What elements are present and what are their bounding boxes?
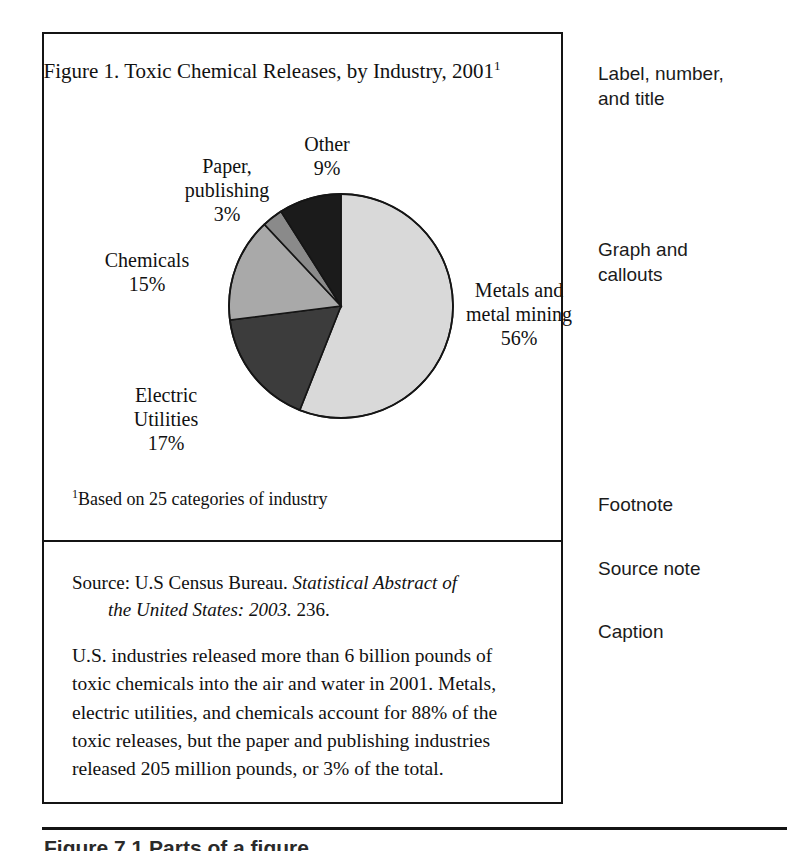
figure-lower-panel: Source: U.S Census Bureau. Statistical A…	[44, 542, 561, 802]
annotation-footnote: Footnote	[598, 493, 803, 518]
pie-callout-other: Other 9%	[272, 132, 382, 180]
annotation-source-note: Source note	[598, 557, 803, 582]
pie-chart: Metals and metal mining 56%Electric Util…	[44, 138, 561, 478]
page-bottom-caption: Figure 7.1 Parts of a figure	[44, 836, 744, 851]
source-note-page: 236.	[292, 599, 330, 620]
pie-callout-electric-utilities: Electric Utilities 17%	[96, 383, 236, 455]
page-divider-rule	[42, 827, 787, 830]
source-note-title: Statistical Abstract of	[293, 572, 457, 593]
pie-slice-group	[229, 194, 453, 418]
figure-caption: U.S. industries released more than 6 bil…	[72, 642, 524, 783]
annotation-label-number-title: Label, number, and title	[598, 62, 803, 111]
pie-callout-chemicals: Chemicals 15%	[82, 248, 212, 296]
footnote-text: Based on 25 categories of industry	[78, 489, 327, 509]
figure-upper-panel: Figure 1. Toxic Chemical Releases, by In…	[44, 34, 561, 542]
annotation-caption: Caption	[598, 620, 803, 645]
figure-title-text: Figure 1. Toxic Chemical Releases, by In…	[43, 59, 494, 83]
source-note-title-cont: the United States: 2003.	[108, 599, 292, 620]
figure-title-footnote-marker: 1	[494, 58, 501, 73]
source-note: Source: U.S Census Bureau. Statistical A…	[72, 570, 512, 624]
figure-box: Figure 1. Toxic Chemical Releases, by In…	[42, 32, 563, 804]
pie-callout-metals-and-metal-mining: Metals and metal mining 56%	[444, 278, 594, 350]
figure-footnote: 1Based on 25 categories of industry	[72, 489, 327, 510]
annotation-graph-and-callouts: Graph and callouts	[598, 238, 803, 287]
source-note-prefix: Source: U.S Census Bureau.	[72, 572, 293, 593]
figure-title: Figure 1. Toxic Chemical Releases, by In…	[72, 56, 512, 86]
